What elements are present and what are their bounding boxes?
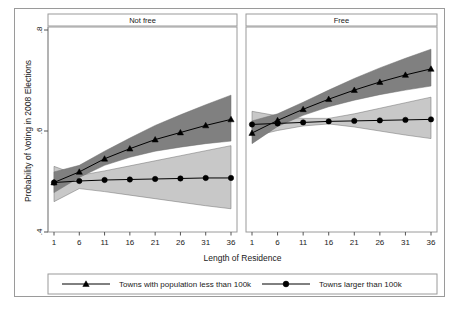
x-tick-label: 21: [151, 238, 160, 247]
legend-entry-label: Towns with population less than 100k: [119, 280, 252, 289]
legend: Towns with population less than 100kTown…: [48, 274, 437, 294]
x-axis-title: Length of Residence: [204, 253, 282, 263]
x-tick-label: 21: [350, 238, 359, 247]
x-tick-label: 31: [201, 238, 210, 247]
y-tick-label: .6: [35, 127, 44, 134]
circle-marker: [403, 117, 408, 122]
chart-figure: Not free16111621263136Free16111621263136…: [0, 0, 455, 310]
y-tick-label: .8: [35, 26, 44, 33]
y-axis: .4.6.8: [35, 26, 48, 235]
circle-marker: [228, 175, 233, 180]
x-tick-label: 1: [52, 238, 57, 247]
panel-title-label: Free: [334, 16, 349, 25]
circle-marker: [377, 118, 382, 123]
legend-entry-label: Towns larger than 100k: [319, 280, 403, 289]
x-tick-label: 11: [100, 238, 109, 247]
panel-free: Free16111621263136: [246, 14, 437, 247]
x-tick-label: 31: [401, 238, 410, 247]
circle-marker: [352, 118, 357, 123]
circle-marker: [152, 176, 157, 181]
x-tick-label: 26: [176, 238, 185, 247]
circle-marker: [178, 176, 183, 181]
circle-marker: [249, 122, 254, 127]
x-tick-label: 36: [227, 238, 236, 247]
circle-marker: [203, 175, 208, 180]
x-tick-label: 11: [299, 238, 308, 247]
circle-marker: [326, 119, 331, 124]
panel-inner: [51, 95, 234, 209]
x-tick-label: 6: [275, 238, 280, 247]
panel-title-label: Not free: [129, 16, 156, 25]
y-tick-label: .4: [35, 228, 44, 235]
circle-marker: [102, 177, 107, 182]
circle-marker: [275, 121, 280, 126]
circle-marker: [77, 178, 82, 183]
x-tick-label: 36: [427, 238, 436, 247]
panel-inner: [249, 49, 434, 143]
circle-marker: [127, 177, 132, 182]
legend-circle-marker: [283, 281, 289, 287]
x-tick-label: 1: [250, 238, 255, 247]
x-tick-label: 6: [77, 238, 82, 247]
panel-not-free: Not free16111621263136: [48, 14, 237, 247]
circle-marker: [51, 180, 56, 185]
x-tick-label: 26: [375, 238, 384, 247]
y-axis-title: Probability of Voting in 2008 Elections: [23, 60, 33, 202]
circle-marker: [428, 117, 433, 122]
chart-canvas: Not free16111621263136Free16111621263136…: [0, 0, 455, 310]
x-tick-label: 16: [125, 238, 134, 247]
x-tick-label: 16: [324, 238, 333, 247]
circle-marker: [300, 120, 305, 125]
